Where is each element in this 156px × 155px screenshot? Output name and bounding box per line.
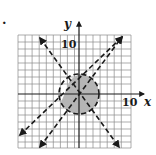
dashed-line-steep [40,37,122,147]
inequality-graph: . y 10 10 x [0,0,156,155]
x-axis-label: x [143,95,152,109]
problem-number: . [2,12,7,27]
x-tick-label: 10 [122,96,138,109]
y-axis-label: y [63,17,72,31]
y-tick-label: 10 [61,38,77,51]
shaded-region [50,60,110,130]
